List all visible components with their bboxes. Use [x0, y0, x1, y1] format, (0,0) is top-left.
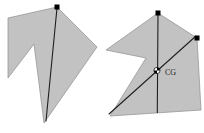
- shape-second-suspension-suspension-dot-2: [195, 36, 200, 41]
- cg-marker-icon: [154, 67, 160, 73]
- shape-first-suspension: [8, 5, 97, 124]
- cg-plumb-line-diagram: CG: [0, 0, 204, 133]
- shape-second-suspension: CG: [106, 11, 201, 117]
- shape-second-suspension-suspension-dot-1: [156, 11, 161, 16]
- cg-label: CG: [165, 68, 176, 77]
- shape-first-suspension-suspension-dot-1: [55, 5, 60, 10]
- shape-first-suspension-outline: [8, 7, 97, 123]
- shape-second-suspension-plumb-line-1: [157, 13, 158, 113]
- shape-second-suspension-outline: [106, 13, 201, 116]
- cg-diagram-canvas: CG: [0, 0, 204, 133]
